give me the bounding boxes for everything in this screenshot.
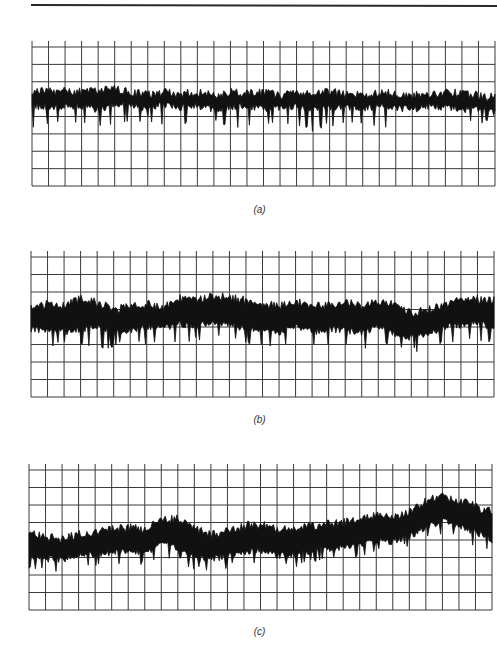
panel-label-c: (c) [0,626,497,637]
panel-c: (c) [0,0,497,667]
chart-c [0,0,497,667]
